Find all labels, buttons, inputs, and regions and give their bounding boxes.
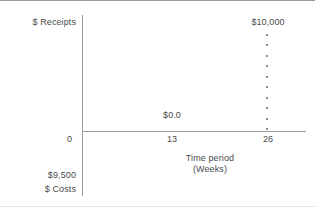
bottom-border-rule: [0, 206, 315, 207]
series-dot: [266, 107, 268, 109]
series-dot: [266, 86, 268, 88]
series-dot: [266, 97, 268, 99]
series-dot: [266, 65, 268, 67]
x-axis-title: Time period (Weeks): [155, 153, 265, 175]
series-dot: [266, 44, 268, 46]
y-axis-title-receipts: $ Receipts: [0, 17, 76, 28]
series-dot: [266, 128, 268, 130]
series-dot: [266, 55, 268, 57]
top-border-rule: [0, 0, 315, 1]
x-axis-title-line2: (Weeks): [155, 164, 265, 175]
series-dot: [266, 34, 268, 36]
x-tick-label-13: 13: [152, 134, 192, 145]
series-dot: [266, 118, 268, 120]
y-axis-line: [82, 15, 83, 196]
x-tick-label-26: 26: [248, 134, 288, 145]
series-dot: [266, 76, 268, 78]
y-axis-title-costs: $ Costs: [0, 184, 76, 195]
receipts-zero-value-label: $0.0: [137, 110, 207, 121]
receipts-dotted-series-line: [266, 34, 269, 128]
receipts-costs-chart: $ Receipts $10,000 $0.0 0 13 26 Time per…: [0, 0, 315, 208]
receipts-max-value-label: $10,000: [230, 17, 306, 28]
x-axis-title-line1: Time period: [186, 153, 234, 163]
x-axis-line: [82, 131, 306, 132]
cost-value-label: $9,500: [0, 170, 76, 181]
x-tick-label-0: 0: [44, 134, 72, 145]
